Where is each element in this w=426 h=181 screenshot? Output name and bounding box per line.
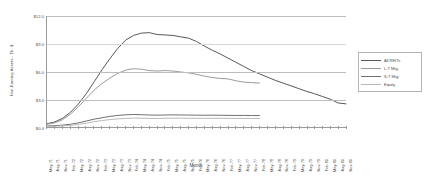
y-axis-tick-labels: $0.0$3.0$6.0$9.0$12.0	[12, 0, 44, 181]
legend-item: S-T Mtg.	[361, 72, 419, 80]
x-axis-tick-mark	[141, 126, 142, 129]
x-axis-tick-mark	[149, 126, 150, 129]
x-axis-tick-mark	[291, 126, 292, 129]
legend-label: L-T Mtg.	[384, 66, 399, 71]
x-axis-tick-mark	[70, 126, 71, 129]
x-axis-tick-mark	[243, 126, 244, 129]
x-axis-tick-mark	[346, 126, 347, 129]
x-axis-tick-mark	[220, 126, 221, 129]
x-axis-tick-mark	[314, 126, 315, 129]
x-axis-tick-mark	[180, 126, 181, 129]
x-axis-tick-mark	[322, 126, 323, 129]
legend-item: Equity	[361, 80, 419, 88]
gridline	[47, 72, 346, 73]
x-axis-tick-mark	[338, 126, 339, 129]
legend-item: All REITs	[361, 56, 419, 64]
legend-color-swatch	[361, 76, 381, 77]
x-axis-tick-mark	[101, 126, 102, 129]
x-axis-tick-mark	[188, 126, 189, 129]
x-axis-tick-mark	[62, 126, 63, 129]
y-axis-tick-label: $12.0	[34, 14, 44, 19]
gridline	[47, 16, 346, 17]
legend-color-swatch	[361, 68, 381, 69]
x-axis-tick-mark	[212, 126, 213, 129]
x-axis-tick-mark	[228, 126, 229, 129]
x-axis-tick-label: Nov-80	[348, 159, 353, 172]
x-axis-tick-mark	[93, 126, 94, 129]
y-axis-tick-label: $0.0	[36, 126, 44, 131]
x-axis-tick-mark	[299, 126, 300, 129]
legend-item: L-T Mtg.	[361, 64, 419, 72]
gridline	[47, 44, 346, 45]
y-axis-tick-label: $3.0	[36, 98, 44, 103]
x-axis-title: Month	[46, 163, 346, 168]
series-line	[47, 33, 346, 124]
x-axis-tick-mark	[235, 126, 236, 129]
x-axis-tick-mark	[46, 126, 47, 129]
legend-label: Equity	[384, 82, 395, 87]
x-axis-tick-mark	[196, 126, 197, 129]
x-axis-tick-mark	[78, 126, 79, 129]
x-axis-tick-mark	[133, 126, 134, 129]
x-axis-tick-mark	[330, 126, 331, 129]
legend-color-swatch	[361, 84, 381, 85]
y-axis-tick-label: $9.0	[36, 42, 44, 47]
x-axis-tick-mark	[251, 126, 252, 129]
x-axis-tick-mark	[109, 126, 110, 129]
x-axis-tick-mark	[85, 126, 86, 129]
x-axis-tick-mark	[307, 126, 308, 129]
x-axis-tick-mark	[267, 126, 268, 129]
x-axis-tick-mark	[172, 126, 173, 129]
chart-legend: All REITsL-T Mtg.S-T Mtg.Equity	[358, 52, 422, 92]
x-axis-tick-mark	[125, 126, 126, 129]
x-axis-tick-mark	[117, 126, 118, 129]
legend-color-swatch	[361, 60, 381, 61]
x-axis-tick-mark	[275, 126, 276, 129]
x-axis-tick-mark	[54, 126, 55, 129]
gridline	[47, 100, 346, 101]
chart-figure: Non-Earning Assets - Th. $ $0.0$3.0$6.0$…	[0, 0, 426, 181]
plot-area	[46, 16, 346, 128]
y-axis-tick-label: $6.0	[36, 70, 44, 75]
legend-label: All REITs	[384, 58, 400, 63]
x-axis-tick-labels: May-71Aug-71Nov-71Feb-72May-72Aug-72Nov-…	[46, 129, 346, 163]
x-axis-tick-mark	[204, 126, 205, 129]
x-axis-tick-mark	[157, 126, 158, 129]
legend-label: S-T Mtg.	[384, 74, 399, 79]
x-axis-tick-mark	[259, 126, 260, 129]
x-axis-tick-mark	[283, 126, 284, 129]
series-line	[47, 69, 259, 124]
x-axis-tick-mark	[164, 126, 165, 129]
